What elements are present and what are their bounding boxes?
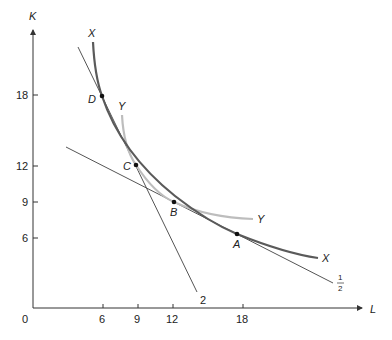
point-d: D [88,93,104,105]
x-axis-label: L [370,303,376,315]
x-tick-18: 18 [236,313,248,325]
y-tick-12: 12 [16,160,28,172]
svg-text:2: 2 [338,284,343,293]
isoquant-x-label-end: X [321,252,330,264]
svg-text:1: 1 [338,273,343,282]
x-ticks: 6 9 12 18 [99,304,248,325]
y-ticks: 18 12 9 6 [16,89,38,244]
y-tick-6: 6 [22,232,28,244]
x-tick-9: 9 [134,313,140,325]
origin-label: 0 [22,313,28,325]
isoquant-y-label-top: Y [118,100,126,112]
point-b: B [170,200,177,218]
isoquant-diagram: K L 0 6 9 12 18 18 12 9 6 2 1 2 Y Y X X [0,0,392,340]
isoquant-y-curve [122,115,253,219]
point-a: A [232,232,240,250]
y-axis-label: K [29,10,37,22]
svg-text:C: C [123,160,131,172]
svg-text:A: A [232,238,240,250]
isocost-line-slope-2 [78,47,197,292]
slope-2-label: 2 [200,294,206,306]
y-tick-18: 18 [16,89,28,101]
isoquant-x-curve [93,42,318,258]
x-tick-6: 6 [99,313,105,325]
x-tick-12: 12 [166,313,178,325]
svg-text:B: B [170,206,177,218]
isoquant-x-label-top: X [87,27,96,39]
y-tick-9: 9 [22,196,28,208]
svg-text:D: D [88,93,96,105]
point-c: C [123,160,138,172]
isoquant-y-label-end: Y [257,213,265,225]
isocost-line-slope-half [66,147,333,283]
slope-half-label: 1 2 [337,273,344,293]
